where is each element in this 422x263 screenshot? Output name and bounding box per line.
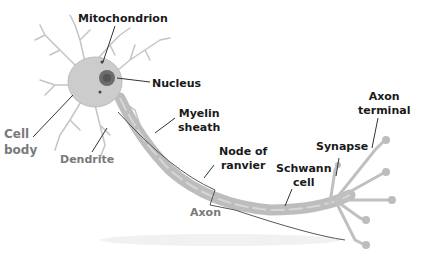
organelle-dot xyxy=(99,91,102,94)
label-synapse: Synapse xyxy=(316,141,368,153)
label-cell-body: Cell body xyxy=(4,126,37,158)
label-node-of-ranvier: Node of ranvier xyxy=(219,145,267,173)
label-dendrite: Dendrite xyxy=(60,154,114,166)
label-nucleus: Nucleus xyxy=(152,78,201,90)
label-axon: Axon xyxy=(190,207,221,219)
label-myelin-sheath: Myelin sheath xyxy=(178,107,220,135)
label-schwann-cell: Schwann cell xyxy=(276,162,332,190)
nucleolus-shape xyxy=(103,74,111,82)
axon-terminal-branches xyxy=(330,140,392,245)
shadow xyxy=(100,234,340,246)
label-axon-terminal: Axon terminal xyxy=(358,90,410,118)
neuron-diagram: Mitochondrion Nucleus Cell body Dendrite… xyxy=(0,0,422,263)
label-mitochondrion: Mitochondrion xyxy=(78,13,168,25)
